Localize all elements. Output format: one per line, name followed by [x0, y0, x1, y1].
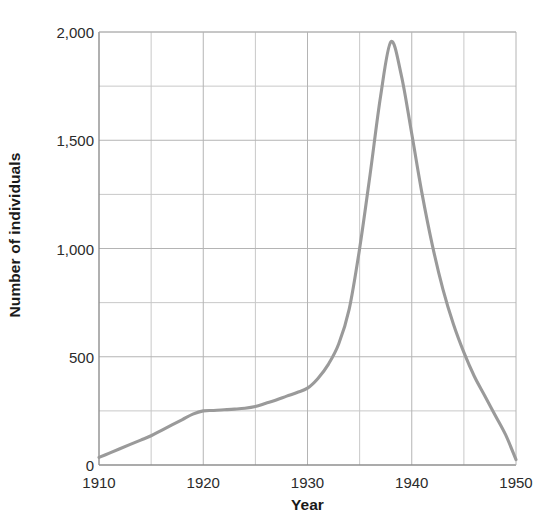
- grid-major: [99, 32, 516, 465]
- chart-figure: Number of individuals 05001,0001,5002,00…: [0, 0, 542, 528]
- plot-area: [0, 0, 542, 528]
